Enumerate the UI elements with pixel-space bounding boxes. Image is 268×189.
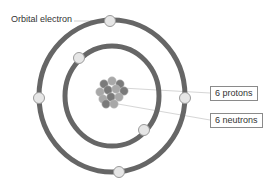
neutron	[112, 85, 120, 93]
nucleus	[96, 77, 128, 108]
inner-shell-electron	[74, 53, 85, 64]
outer-shell-electron	[180, 93, 191, 104]
outer-shell-electron	[114, 167, 125, 178]
neutron	[108, 77, 116, 85]
neutron	[115, 93, 123, 101]
inner-shell-electron	[139, 125, 150, 136]
neutron	[110, 100, 118, 108]
orbital-electron-label: Orbital electron	[11, 15, 72, 24]
proton	[102, 100, 110, 108]
leader-line-protons	[122, 88, 210, 93]
protons-label: 6 protons	[210, 86, 258, 101]
leader-line-neutrons	[118, 104, 210, 120]
neutrons-label: 6 neutrons	[210, 113, 263, 128]
outer-shell-electron	[34, 93, 45, 104]
outer-shell-electron	[105, 16, 116, 27]
